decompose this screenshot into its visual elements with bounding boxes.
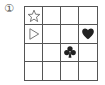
grid-cell bbox=[25, 62, 43, 80]
grid-cell bbox=[43, 44, 61, 62]
symbol-grid bbox=[24, 6, 98, 81]
grid-cell bbox=[61, 7, 79, 25]
grid-cell bbox=[61, 44, 79, 62]
club-icon bbox=[63, 45, 77, 59]
triangle-right-outline-icon bbox=[27, 27, 41, 41]
grid-cell bbox=[79, 62, 97, 80]
grid-cell bbox=[25, 7, 43, 25]
grid-cell bbox=[25, 44, 43, 62]
star-outline-icon bbox=[27, 9, 41, 23]
grid-cell bbox=[79, 44, 97, 62]
grid-cell bbox=[43, 7, 61, 25]
grid-cell bbox=[61, 25, 79, 43]
problem-number: ① bbox=[3, 3, 15, 15]
grid-cell bbox=[61, 62, 79, 80]
grid-cell bbox=[79, 25, 97, 43]
grid-cell bbox=[43, 25, 61, 43]
grid-cell bbox=[25, 25, 43, 43]
grid-cell bbox=[79, 7, 97, 25]
heart-icon bbox=[81, 27, 95, 41]
grid-cell bbox=[43, 62, 61, 80]
